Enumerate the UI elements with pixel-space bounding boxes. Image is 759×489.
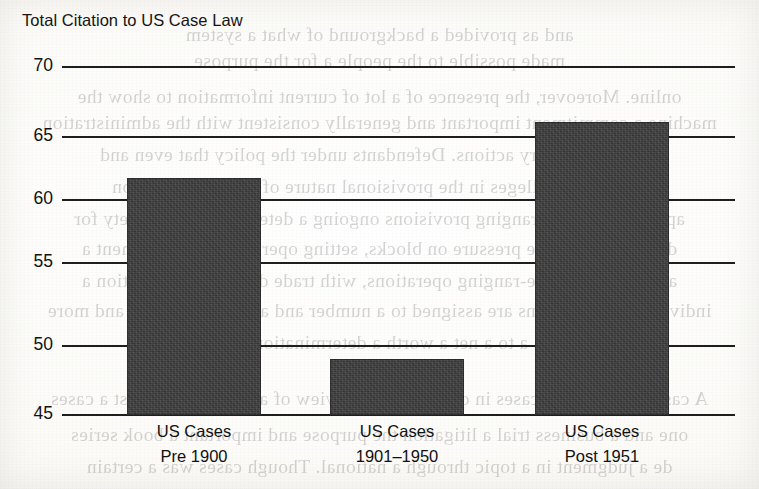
chart-title: Total Citation to US Case Law	[22, 11, 243, 30]
category-label-line1: US Cases	[157, 422, 231, 440]
paper-background	[0, 0, 759, 489]
category-label-1901-1950: US Cases 1901–1950	[330, 419, 464, 469]
category-label-line1: US Cases	[360, 422, 434, 440]
category-label-pre-1900: US Cases Pre 1900	[127, 419, 261, 469]
category-label-line2: Post 1951	[535, 444, 669, 469]
chart-screenshot: and as provided a background of what a s…	[0, 0, 759, 489]
category-label-post-1951: US Cases Post 1951	[535, 419, 669, 469]
category-label-line2: Pre 1900	[127, 444, 261, 469]
category-label-line2: 1901–1950	[330, 444, 464, 469]
category-label-line1: US Cases	[565, 422, 639, 440]
